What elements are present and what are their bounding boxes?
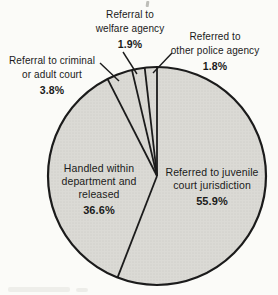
label-juvenile-court: Referred to juvenile court jurisdiction … bbox=[165, 166, 258, 208]
label-criminal-court-line2: or adult court bbox=[9, 68, 95, 82]
label-criminal-court: Referral to criminal or adult court 3.8% bbox=[9, 54, 95, 97]
label-handled-line2: department and bbox=[62, 175, 137, 188]
label-juvenile-court-percent: 55.9% bbox=[165, 195, 258, 208]
label-other-police-agency: Referred to other police agency 1.8% bbox=[171, 30, 260, 73]
label-welfare-agency: Referral to welfare agency 1.9% bbox=[96, 8, 165, 51]
label-juvenile-court-line1: Referred to juvenile bbox=[165, 166, 258, 179]
label-other-police-agency-line2: other police agency bbox=[171, 44, 260, 58]
label-welfare-agency-line1: Referral to bbox=[96, 8, 165, 22]
faint-caption-artifact-2 bbox=[76, 288, 88, 292]
label-other-police-agency-percent: 1.8% bbox=[171, 59, 260, 73]
pie-chart-figure: Referral to welfare agency 1.9% Referred… bbox=[0, 0, 278, 295]
label-handled-line1: Handled within bbox=[62, 162, 137, 175]
label-welfare-agency-percent: 1.9% bbox=[96, 37, 165, 51]
label-juvenile-court-line2: court jurisdiction bbox=[165, 179, 258, 192]
label-handled-within-department: Handled within department and released 3… bbox=[62, 162, 137, 217]
faint-caption-artifact bbox=[8, 287, 70, 292]
label-handled-line3: released bbox=[62, 188, 137, 201]
label-other-police-agency-line1: Referred to bbox=[171, 30, 260, 44]
label-welfare-agency-line2: welfare agency bbox=[96, 22, 165, 36]
label-criminal-court-line1: Referral to criminal bbox=[9, 54, 95, 68]
label-criminal-court-percent: 3.8% bbox=[9, 83, 95, 97]
label-handled-percent: 36.6% bbox=[62, 204, 137, 217]
